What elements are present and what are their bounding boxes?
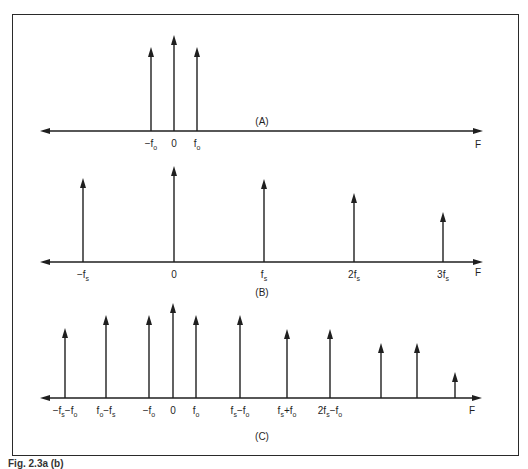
impulse: 0 — [171, 166, 177, 280]
axis-left-arrow-icon — [40, 128, 50, 134]
impulse: 2fs−fo — [318, 329, 342, 418]
impulse-label: 2fs−fo — [318, 405, 342, 418]
panel-label: (B) — [255, 287, 268, 298]
impulse-label: −fs — [77, 269, 90, 282]
axis-label-f: F — [469, 405, 475, 416]
impulse-label: 3fs — [437, 269, 449, 282]
impulse-label: fo — [194, 138, 201, 151]
impulse: 0 — [171, 35, 177, 149]
impulse — [378, 343, 384, 398]
impulse-arrow-icon — [62, 328, 68, 338]
impulse: fo — [193, 315, 200, 418]
impulse-label: 0 — [170, 405, 176, 416]
impulse-arrow-icon — [193, 315, 199, 325]
impulse: fs−fo — [231, 315, 250, 418]
axis-label-f: F — [475, 139, 481, 150]
impulse-arrow-icon — [351, 193, 357, 203]
impulse-arrow-icon — [284, 329, 290, 339]
impulse — [452, 372, 458, 398]
impulse-arrow-icon — [414, 343, 420, 353]
impulse-label: −fo — [143, 405, 156, 418]
impulse-arrow-icon — [440, 212, 446, 222]
impulse-arrow-icon — [171, 35, 177, 45]
impulse-arrow-icon — [194, 47, 200, 57]
impulse-arrow-icon — [148, 47, 154, 57]
impulse-label: 2fs — [348, 269, 360, 282]
axis-left-arrow-icon — [40, 395, 50, 401]
impulse-label: 0 — [171, 269, 177, 280]
impulse-arrow-icon — [103, 315, 109, 325]
impulse: −fs — [77, 178, 90, 282]
figure-caption: Fig. 2.3a (b) — [8, 458, 64, 469]
impulse-label: −fs−fo — [53, 405, 78, 418]
impulse-arrow-icon — [237, 315, 243, 325]
impulse-arrow-icon — [327, 329, 333, 339]
impulse-label: 0 — [171, 138, 177, 149]
impulse-arrow-icon — [170, 303, 176, 313]
impulse-label: fo−fs — [97, 405, 116, 418]
impulse-arrow-icon — [378, 343, 384, 353]
axis-right-arrow-icon — [473, 128, 483, 134]
impulse: −fo — [143, 315, 156, 418]
impulse-label: fs+fo — [278, 405, 297, 418]
panel-label: (A) — [255, 116, 268, 127]
axis-right-arrow-icon — [472, 395, 482, 401]
panel-label: (C) — [255, 431, 269, 442]
axis-label-f: F — [475, 267, 481, 278]
impulse-arrow-icon — [146, 315, 152, 325]
impulse-label: −fo — [145, 138, 158, 151]
panel-c: F(C)−fs−fofo−fs−fo0fofs−fofs+fo2fs−fo — [40, 303, 482, 442]
impulse: 0 — [170, 303, 176, 416]
impulse-label: fo — [193, 405, 200, 418]
panel-b: F(B)−fs0fs2fs3fs — [40, 166, 483, 298]
axis-right-arrow-icon — [473, 259, 483, 265]
panel-a: F(A)−fo0fo — [40, 35, 483, 151]
axis-left-arrow-icon — [40, 259, 50, 265]
impulse-arrow-icon — [452, 372, 458, 382]
impulse: 2fs — [348, 193, 360, 282]
impulse — [414, 343, 420, 398]
impulse: −fs−fo — [53, 328, 78, 418]
impulse: −fo — [145, 47, 158, 151]
impulse: fs — [261, 179, 268, 282]
impulse: fo — [194, 47, 201, 151]
impulse-arrow-icon — [80, 178, 86, 188]
impulse: fs+fo — [278, 329, 297, 418]
impulse: fo−fs — [97, 315, 116, 418]
impulse-label: fs — [261, 269, 268, 282]
impulse-arrow-icon — [171, 166, 177, 176]
impulse: 3fs — [437, 212, 449, 282]
impulse-label: fs−fo — [231, 405, 250, 418]
impulse-arrow-icon — [261, 179, 267, 189]
